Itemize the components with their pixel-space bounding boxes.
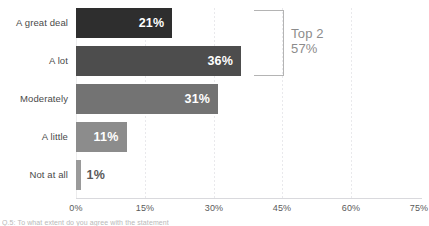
plot-area: A great deal 21% A lot 36% Moderately 31… xyxy=(76,8,420,198)
chart-footnote: Q.5: To what extent do you agree with th… xyxy=(2,219,169,226)
xtick-label-75: 75% xyxy=(410,203,429,213)
top-2-annotation: Top 2 57% xyxy=(291,26,324,56)
category-label-a-lot: A lot xyxy=(49,46,68,76)
xtick-label-0: 0% xyxy=(69,203,82,213)
bar-value-a-lot: 36% xyxy=(207,46,233,76)
top-2-annotation-value: 57% xyxy=(291,41,324,56)
bar-a-great-deal: 21% xyxy=(76,8,172,38)
bar-row-not-at-all: Not at all 1% xyxy=(76,160,420,190)
xtick-label-15: 15% xyxy=(136,203,155,213)
top-2-bracket-icon xyxy=(254,10,284,76)
top-2-annotation-title: Top 2 xyxy=(291,26,324,41)
xtick-label-60: 60% xyxy=(342,203,361,213)
category-label-moderately: Moderately xyxy=(20,84,68,114)
bar-value-moderately: 31% xyxy=(185,84,211,114)
bar-moderately: 31% xyxy=(76,84,218,114)
bar-chart: A great deal 21% A lot 36% Moderately 31… xyxy=(0,0,429,226)
category-label-a-great-deal: A great deal xyxy=(16,8,68,38)
bar-row-a-great-deal: A great deal 21% xyxy=(76,8,420,38)
bar-a-little: 11% xyxy=(76,122,127,152)
bar-a-lot: 36% xyxy=(76,46,241,76)
category-label-a-little: A little xyxy=(42,122,68,152)
bar-row-moderately: Moderately 31% xyxy=(76,84,420,114)
bar-row-a-lot: A lot 36% xyxy=(76,46,420,76)
bar-row-a-little: A little 11% xyxy=(76,122,420,152)
xtick-label-30: 30% xyxy=(205,203,224,213)
bar-not-at-all: 1% xyxy=(76,160,81,190)
category-label-not-at-all: Not at all xyxy=(30,160,69,190)
xtick-label-45: 45% xyxy=(273,203,292,213)
x-axis-line xyxy=(76,198,422,199)
bar-value-not-at-all: 1% xyxy=(87,160,105,190)
bar-value-a-little: 11% xyxy=(94,122,119,152)
bar-value-a-great-deal: 21% xyxy=(139,8,165,38)
